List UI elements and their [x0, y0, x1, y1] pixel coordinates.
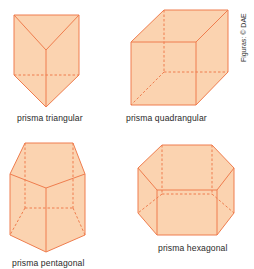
image-credit: Figuras: © DAE	[240, 13, 247, 62]
hexagonal-prism-shape	[138, 145, 234, 235]
prisms-drawing	[0, 0, 254, 269]
quadrangular-prism-shape	[131, 10, 228, 105]
label-hexagonal: prisma hexagonal	[158, 243, 227, 253]
label-quadrangular: prisma quadrangular	[126, 113, 207, 123]
label-triangular: prisma triangular	[17, 113, 83, 123]
label-pentagonal: prisma pentagonal	[12, 258, 84, 268]
triangular-prism-shape	[14, 15, 79, 107]
pentagonal-prism-shape	[10, 143, 85, 252]
prisms-figure: prisma triangular prisma quadrangular pr…	[0, 0, 254, 269]
